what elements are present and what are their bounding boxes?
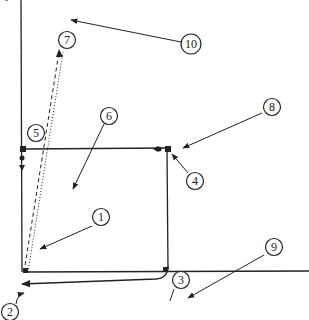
left-vertical-line	[21, 0, 22, 272]
svg-text:1: 1	[98, 210, 104, 224]
left-arrow-icon	[153, 146, 158, 152]
leader-3	[170, 289, 174, 301]
leader-9	[188, 255, 264, 298]
return-curve	[22, 266, 168, 284]
dotted-line	[28, 52, 63, 272]
callout-9: 9	[266, 239, 283, 256]
leader-lines	[16, 20, 264, 304]
leader-2	[16, 293, 24, 304]
right-vertical-line	[167, 149, 168, 270]
svg-text:4: 4	[192, 174, 198, 188]
callout-10: 10	[181, 34, 201, 54]
callout-2: 2	[2, 304, 19, 320]
down-arrow-icon	[19, 165, 25, 171]
callout-6: 6	[101, 108, 118, 125]
leader-1	[40, 226, 92, 249]
leader-8	[183, 113, 262, 148]
terminals	[19, 146, 171, 273]
node-3-square	[163, 267, 168, 272]
svg-text:2: 2	[7, 305, 13, 319]
leader-6	[73, 124, 104, 189]
callout-8: 8	[264, 99, 281, 116]
svg-text:10: 10	[185, 37, 197, 51]
node-5-dot	[20, 156, 25, 161]
top-horizontal-line	[24, 148, 168, 149]
dashed-path-pair	[24, 49, 63, 272]
svg-text:9: 9	[271, 240, 277, 254]
callout-7: 7	[59, 32, 76, 49]
callout-1: 1	[93, 209, 110, 226]
up-arrow-icon	[56, 49, 63, 57]
dashed-line	[24, 52, 59, 272]
svg-text:6: 6	[106, 109, 112, 123]
callout-4: 4	[187, 173, 204, 190]
callout-5: 5	[28, 125, 45, 142]
callout-3: 3	[173, 272, 190, 289]
node-5-square	[20, 146, 26, 152]
leader-4	[172, 154, 188, 173]
frame-lines	[5, 0, 309, 284]
diagram-canvas: 7 10 5 6 8 4 1 9 3 2	[0, 0, 309, 320]
svg-text:5: 5	[33, 126, 39, 140]
svg-text:7: 7	[64, 33, 70, 47]
leader-10	[71, 20, 181, 42]
svg-text:3: 3	[178, 273, 184, 287]
node-4-square	[165, 146, 171, 152]
svg-text:8: 8	[269, 100, 275, 114]
